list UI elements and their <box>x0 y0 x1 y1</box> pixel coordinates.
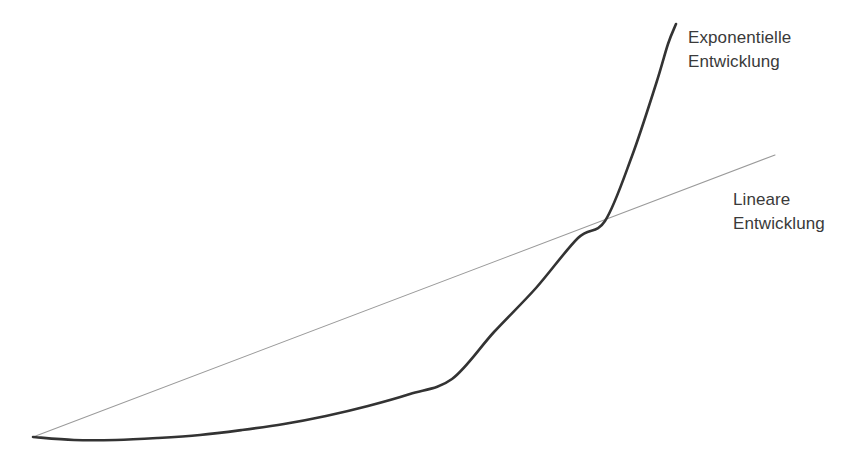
annotation-linear-line2: Entwicklung <box>733 212 825 236</box>
series-line-exponential <box>33 24 676 440</box>
annotation-lineare-entwicklung: Lineare Entwicklung <box>733 188 825 236</box>
chart-canvas: Exponentielle Entwicklung Lineare Entwic… <box>0 0 864 471</box>
annotation-exponential-line1: Exponentielle <box>688 26 791 50</box>
annotation-exponential-line2: Entwicklung <box>688 50 791 74</box>
annotation-exponentielle-entwicklung: Exponentielle Entwicklung <box>688 26 791 74</box>
annotation-linear-line1: Lineare <box>733 188 825 212</box>
